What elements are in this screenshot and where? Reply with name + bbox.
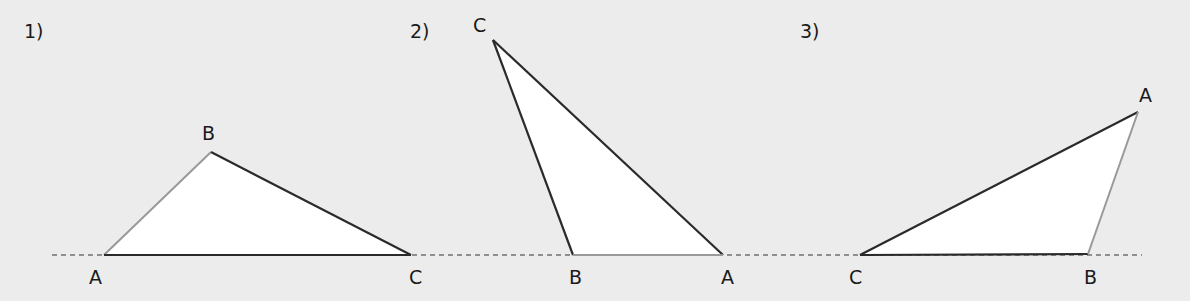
figure-1-vertex-a: A <box>89 266 102 288</box>
triangle-1-fill <box>104 152 411 255</box>
figure-3-number: 3) <box>800 20 820 42</box>
figure-3-vertex-c: C <box>849 266 862 288</box>
figure-2-vertex-b: B <box>569 266 582 288</box>
figure-2-vertex-c: C <box>473 14 486 36</box>
figure-2-number: 2) <box>410 20 430 42</box>
figure-1: 1) A B C <box>24 20 422 288</box>
figure-1-vertex-c: C <box>409 266 422 288</box>
figure-3-vertex-b: B <box>1084 266 1097 288</box>
figure-2-vertex-a: A <box>721 266 734 288</box>
figure-3: 3) C B A <box>800 20 1152 288</box>
triangles-diagram: 1) A B C 2) C B A 3) C B A <box>0 0 1190 301</box>
figure-1-vertex-b: B <box>202 122 215 144</box>
triangle-3-side-cb <box>860 254 1088 255</box>
figure-2: 2) C B A <box>410 14 734 288</box>
figure-1-number: 1) <box>24 20 44 42</box>
figure-3-vertex-a: A <box>1139 84 1152 106</box>
